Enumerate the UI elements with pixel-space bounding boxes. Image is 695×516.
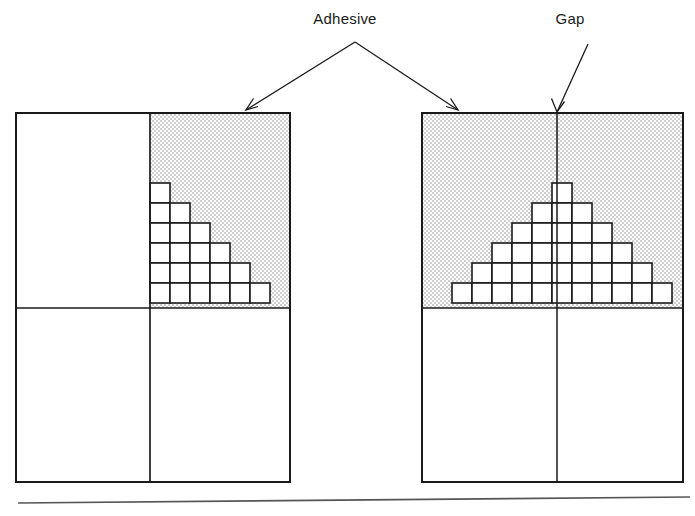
staircase-cell: [210, 283, 230, 303]
pyramid-cell: [612, 243, 632, 263]
adhesive-leader-right: [355, 42, 458, 110]
pyramid-cell: [532, 263, 552, 283]
pyramid-cell: [652, 283, 672, 303]
right-panel-group: [422, 113, 683, 482]
staircase-cell: [190, 263, 210, 283]
staircase-cell: [170, 223, 190, 243]
pyramid-cell: [472, 283, 492, 303]
pyramid-cell: [572, 263, 592, 283]
adhesive-gap-diagram: Adhesive Gap: [0, 0, 695, 516]
staircase-cell: [210, 263, 230, 283]
staircase-cell: [170, 283, 190, 303]
pyramid-cell: [592, 243, 612, 263]
pyramid-cell: [492, 263, 512, 283]
pyramid-cell: [612, 283, 632, 303]
staircase-cell: [230, 283, 250, 303]
staircase-cell: [190, 243, 210, 263]
staircase-cell: [150, 243, 170, 263]
pyramid-cell: [552, 203, 572, 223]
pyramid-cell: [612, 263, 632, 283]
pyramid-cell: [532, 283, 552, 303]
pyramid-cell: [512, 243, 532, 263]
staircase-cell: [170, 243, 190, 263]
staircase-cell: [210, 243, 230, 263]
adhesive-arrowhead-right-icon: [446, 99, 458, 111]
staircase-cell: [250, 283, 270, 303]
pyramid-cell: [592, 283, 612, 303]
adhesive-leader-left: [246, 42, 355, 110]
pyramid-cell: [572, 243, 592, 263]
pyramid-cell: [552, 283, 572, 303]
pyramid-cell: [592, 263, 612, 283]
pyramid-cell: [492, 283, 512, 303]
pyramid-cell: [552, 243, 572, 263]
adhesive-label: Adhesive: [313, 10, 376, 27]
pyramid-cell: [572, 223, 592, 243]
staircase-cell: [150, 223, 170, 243]
pyramid-cell: [552, 223, 572, 243]
diagram-canvas: Adhesive Gap: [0, 0, 695, 516]
pyramid-cell: [572, 203, 592, 223]
page-baseline-rule: [18, 497, 690, 503]
pyramid-cell: [532, 203, 552, 223]
pyramid-cell: [512, 283, 532, 303]
pyramid-cell: [552, 263, 572, 283]
staircase-cell: [170, 263, 190, 283]
pyramid-cell: [512, 223, 532, 243]
pyramid-cell: [452, 283, 472, 303]
staircase-cell: [150, 183, 170, 203]
gap-label: Gap: [556, 10, 585, 27]
pyramid-cell: [632, 283, 652, 303]
staircase-cell: [150, 263, 170, 283]
staircase-cell: [150, 203, 170, 223]
pyramid-cell: [592, 223, 612, 243]
pyramid-cell: [492, 243, 512, 263]
pyramid-cell: [512, 263, 532, 283]
pyramid-cell: [632, 263, 652, 283]
pyramid-cell: [572, 283, 592, 303]
annotation-group: Adhesive Gap: [246, 10, 588, 112]
staircase-cell: [150, 283, 170, 303]
staircase-cell: [190, 283, 210, 303]
pyramid-cell: [472, 263, 492, 283]
staircase-cell: [190, 223, 210, 243]
pyramid-cell: [532, 243, 552, 263]
staircase-cell: [170, 203, 190, 223]
pyramid-cell: [552, 183, 572, 203]
staircase-cell: [230, 263, 250, 283]
left-panel-group: [16, 113, 290, 482]
pyramid-cell: [532, 223, 552, 243]
gap-leader: [557, 44, 588, 112]
